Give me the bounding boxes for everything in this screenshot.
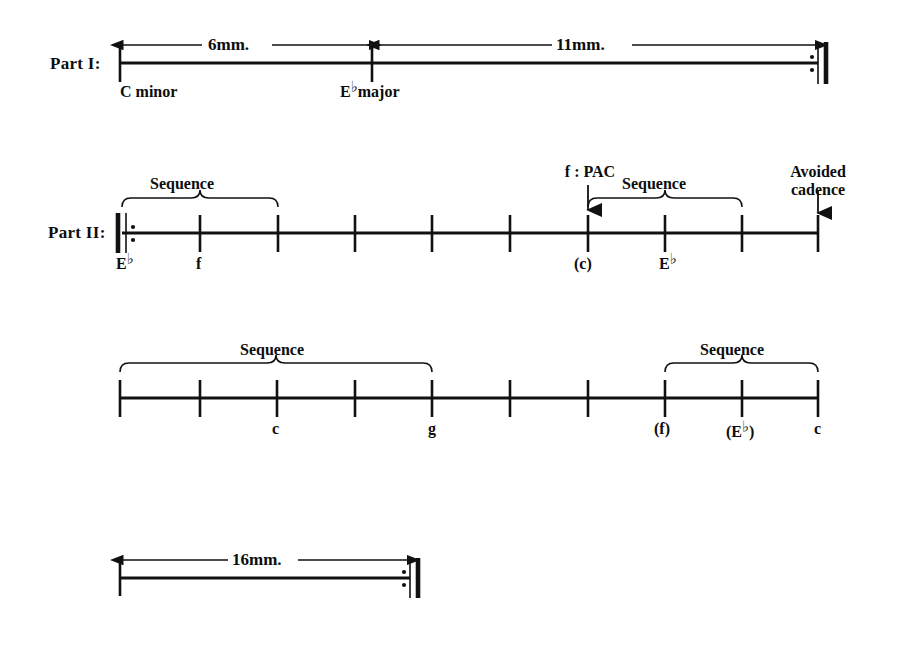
key-label-g-p3: g bbox=[428, 421, 436, 437]
key-label-eflat-p2: E♭ bbox=[116, 256, 134, 272]
bracket-label-sequence-4: Sequence bbox=[700, 342, 764, 358]
part2-brace-sequence-1 bbox=[122, 190, 278, 207]
row-label-part-1: Part I: bbox=[50, 55, 101, 72]
avoided-line2: cadence bbox=[791, 181, 845, 198]
key-letter: E bbox=[340, 83, 351, 100]
key-label-f-paren-p3: (f) bbox=[654, 421, 670, 437]
part2-word: Part bbox=[48, 223, 86, 242]
part2-numeral: II bbox=[86, 223, 100, 242]
diagram-canvas: Part I: 6mm. 11mm. C minor E♭major Part … bbox=[0, 0, 902, 659]
key-label-eflat-major: E♭major bbox=[340, 84, 400, 100]
key-label-c-p3: c bbox=[272, 421, 279, 437]
key-label-eflat-paren-p3: (E♭) bbox=[726, 424, 754, 440]
measure-span-11mm: 11mm. bbox=[556, 36, 605, 53]
key-label-f-p2: f bbox=[196, 256, 201, 272]
measure-span-6mm: 6mm. bbox=[208, 36, 249, 53]
key-letter: (E bbox=[726, 423, 742, 440]
bracket-label-sequence-3: Sequence bbox=[240, 342, 304, 358]
key-paren-close: ) bbox=[749, 423, 754, 440]
part2-colon: : bbox=[100, 223, 106, 242]
part2-timeline bbox=[118, 213, 818, 253]
flat-icon: ♭ bbox=[351, 79, 358, 95]
flat-icon: ♭ bbox=[670, 251, 677, 267]
key-letter: E bbox=[659, 255, 670, 272]
key-label-c-paren-p2: (c) bbox=[574, 256, 592, 272]
annotation-f-pac: f : PAC bbox=[540, 163, 640, 181]
key-letter: E bbox=[116, 255, 127, 272]
part2cont-timeline bbox=[120, 380, 818, 417]
bracket-label-sequence-1: Sequence bbox=[150, 176, 214, 192]
key-quality: major bbox=[358, 83, 400, 100]
avoided-line1: Avoided bbox=[790, 163, 846, 180]
key-label-c-minor: C minor bbox=[120, 84, 177, 100]
key-label-eflat2-p2: E♭ bbox=[659, 256, 677, 272]
flat-icon: ♭ bbox=[127, 251, 134, 267]
row-label-part-2: Part II: bbox=[48, 224, 106, 241]
flat-icon: ♭ bbox=[742, 419, 749, 435]
part2-brace-sequence-2 bbox=[588, 190, 742, 207]
key-label-c-end-p3: c bbox=[814, 421, 821, 437]
annotation-avoided-cadence: Avoided cadence bbox=[768, 163, 868, 199]
measure-span-16mm: 16mm. bbox=[232, 551, 282, 568]
